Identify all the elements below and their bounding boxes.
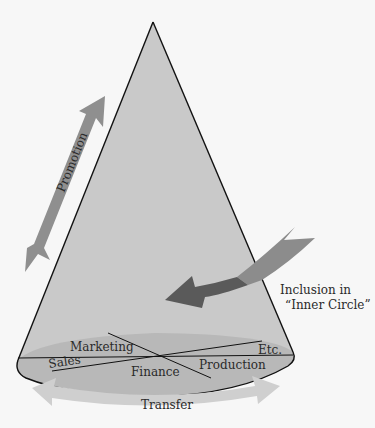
function-label-production: Production	[199, 358, 266, 372]
promotion-label: Promotion	[54, 130, 91, 194]
function-label-finance: Finance	[131, 365, 180, 379]
transfer-label: Transfer	[141, 398, 193, 412]
organizational-cone-diagram: Marketing Sales Finance Production Etc. …	[0, 0, 375, 428]
function-label-marketing: Marketing	[70, 340, 134, 354]
inclusion-label-line1: Inclusion in	[280, 283, 351, 298]
inclusion-label-line2: “Inner Circle”	[285, 298, 371, 313]
function-label-etc: Etc.	[258, 343, 282, 357]
